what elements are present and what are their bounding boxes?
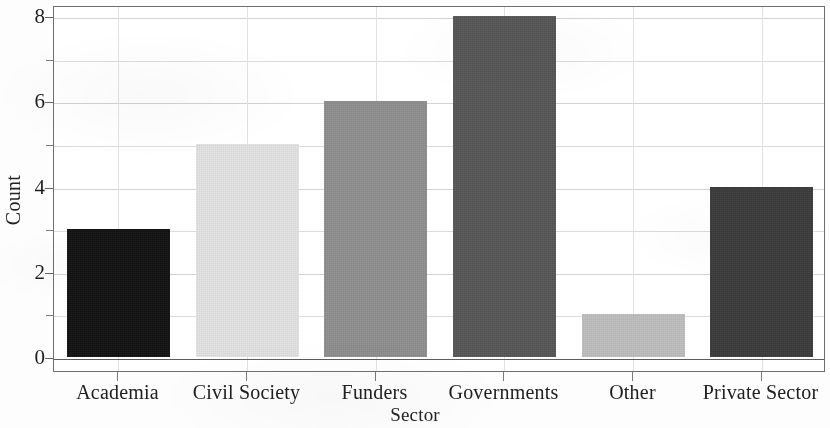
x-tick-mark-2	[375, 372, 376, 381]
y-tick-label-4: 4	[19, 177, 45, 198]
bar-civil-society	[196, 144, 299, 357]
x-tick-label-governments: Governments	[439, 382, 568, 403]
bar-funders	[324, 101, 427, 357]
bar-private-sector	[710, 187, 813, 357]
y-tick-mark-6	[45, 102, 53, 103]
y-tick-mark-8	[45, 17, 53, 18]
x-axis-title: Sector	[0, 404, 830, 426]
bar-texture	[582, 314, 685, 357]
x-tick-mark-3	[503, 372, 504, 381]
y-minor-tick-mark-7	[46, 60, 53, 61]
y-minor-tick-mark-1	[46, 315, 53, 316]
x-tick-label-academia: Academia	[53, 382, 182, 403]
y-minor-tick-mark-5	[46, 145, 53, 146]
bar-texture	[196, 144, 299, 357]
gridline-y-6	[54, 103, 824, 104]
y-tick-label-0: 0	[19, 347, 45, 368]
gridline-y-8	[54, 18, 824, 19]
x-tick-mark-0	[117, 372, 118, 381]
x-tick-label-other: Other	[568, 382, 697, 403]
gridline-y-5	[54, 146, 824, 147]
bar-texture	[324, 101, 427, 357]
x-tick-label-funders: Funders	[310, 382, 439, 403]
y-tick-label-8: 8	[19, 6, 45, 27]
bar-texture	[453, 16, 556, 357]
plot-area	[53, 6, 825, 372]
y-tick-mark-4	[45, 188, 53, 189]
bar-texture	[710, 187, 813, 357]
bar-chart-figure: Count 02468 AcademiaCivil SocietyFunders…	[0, 0, 830, 428]
x-tick-mark-5	[761, 372, 762, 381]
gridline-y-4	[54, 189, 824, 190]
bar-texture	[67, 229, 170, 357]
gridline-y-7	[54, 61, 824, 62]
zero-baseline	[54, 359, 824, 360]
y-tick-label-6: 6	[19, 91, 45, 112]
bar-other	[582, 314, 685, 357]
y-tick-mark-0	[45, 358, 53, 359]
bar-academia	[67, 229, 170, 357]
x-tick-mark-4	[632, 372, 633, 381]
y-minor-tick-mark-3	[46, 230, 53, 231]
x-tick-label-private-sector: Private Sector	[696, 382, 825, 403]
x-tick-label-civil-society: Civil Society	[182, 382, 311, 403]
y-tick-mark-2	[45, 273, 53, 274]
x-tick-mark-1	[246, 372, 247, 381]
y-axis-tick-labels: 02468	[0, 0, 45, 428]
y-tick-label-2: 2	[19, 262, 45, 283]
bar-governments	[453, 16, 556, 357]
